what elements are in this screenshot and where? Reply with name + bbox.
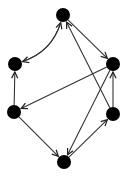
edge-left-lower-to-left-upper (14, 72, 15, 105)
node-right-upper (106, 57, 120, 71)
node-top (56, 8, 70, 22)
edge-top-to-right-upper (68, 20, 107, 59)
edges (14, 20, 113, 157)
node-left-lower (7, 105, 21, 119)
edge-top-to-left-upper (23, 22, 61, 62)
node-bottom (57, 155, 71, 169)
edge-right-lower-to-top (67, 22, 110, 108)
directed-graph (0, 0, 128, 176)
node-right-lower (106, 107, 120, 121)
node-left-upper (8, 57, 22, 71)
edge-bottom-to-right-lower (69, 120, 107, 158)
edge-left-upper-to-top (22, 23, 61, 62)
edge-left-lower-to-bottom (19, 117, 58, 156)
